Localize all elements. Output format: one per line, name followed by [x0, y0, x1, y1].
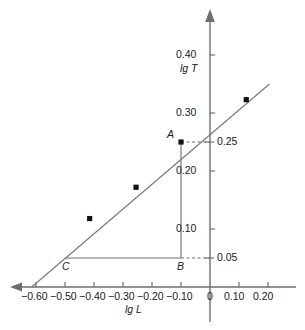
y-tick-label: 0.40 [176, 48, 196, 60]
x-tick-label: 0 [207, 290, 213, 302]
y-axis-title: lg T [180, 62, 198, 74]
data-points-group [87, 97, 249, 221]
y-tick-label: 0.10 [176, 222, 196, 234]
point-label-b: B [177, 260, 184, 272]
data-point-marker [133, 185, 138, 190]
x-tick-label: −0.50 [50, 290, 77, 302]
x-tick-label: −0.10 [166, 290, 193, 302]
x-axis-title: lg L [125, 303, 142, 315]
plot-canvas [0, 0, 305, 330]
x-tick-label: 0.10 [224, 290, 244, 302]
data-point-marker [178, 139, 183, 144]
point-label-a: A [167, 128, 174, 140]
y-tick-label: 0.20 [176, 164, 196, 176]
reference-value-label: 0.05 [217, 251, 237, 263]
y-axis-arrow-icon [205, 9, 215, 22]
point-label-c: C [62, 260, 70, 272]
x-tick-label: −0.40 [79, 290, 106, 302]
x-tick-label: −0.60 [21, 290, 48, 302]
y-tick-label: 0.30 [176, 106, 196, 118]
x-tick-label: −0.30 [108, 290, 135, 302]
data-point-marker [87, 216, 92, 221]
data-point-marker [244, 97, 249, 102]
x-tick-label: −0.20 [137, 290, 164, 302]
reference-value-label: 0.25 [217, 135, 237, 147]
axes-group [10, 9, 296, 322]
x-tick-label: 0.20 [253, 290, 273, 302]
chart-figure: −0.60−0.50−0.40−0.30−0.20−0.1000.100.200… [0, 0, 305, 330]
